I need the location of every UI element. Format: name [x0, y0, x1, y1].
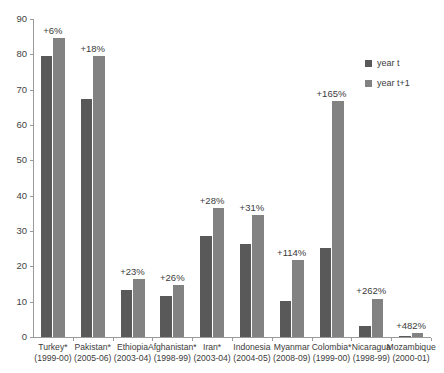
- x-axis-tick-0: [73, 338, 74, 341]
- bar-pakistan-year-t-1: [93, 56, 105, 337]
- bar-annotation-ethiopia: +23%: [113, 266, 153, 277]
- bar-nicaragua-year-t: [359, 326, 371, 337]
- bar-iran-year-t: [200, 236, 212, 337]
- bar-afghanistan-year-t: [160, 296, 172, 337]
- y-tick-label: 70: [16, 83, 27, 96]
- y-axis-tick-0: 0: [0, 337, 33, 338]
- bar-mozambique-year-t-1: [412, 333, 424, 337]
- bar-annotation-colombia: +165%: [312, 88, 352, 99]
- bar-mozambique-year-t: [399, 336, 411, 337]
- legend-swatch-icon-year-t: [365, 60, 372, 67]
- y-axis-tick-40: 40: [0, 196, 33, 197]
- y-tick-label: 90: [16, 12, 27, 25]
- legend-item-year-t-plus-1: year t+1: [365, 75, 443, 91]
- x-label-period: (2000-01): [385, 353, 437, 364]
- x-axis-tick-4: [232, 338, 233, 341]
- y-tick-label: 60: [16, 118, 27, 131]
- x-label-country: Mozambique: [385, 342, 437, 353]
- x-axis-tick-7: [351, 338, 352, 341]
- y-tick-label: 50: [16, 153, 27, 166]
- y-axis-tick-30: 30: [0, 231, 33, 232]
- y-axis-tick-70: 70: [0, 90, 33, 91]
- x-axis-tick-3: [192, 338, 193, 341]
- bar-myanmar-year-t-1: [292, 260, 304, 337]
- bar-annotation-indonesia: +31%: [232, 202, 272, 213]
- y-tick-label: 10: [16, 295, 27, 308]
- y-tick-label: 80: [16, 47, 27, 60]
- x-label-mozambique: Mozambique(2000-01): [385, 342, 437, 365]
- y-tick-label: 40: [16, 189, 27, 202]
- bar-turkey-year-t-1: [53, 38, 65, 337]
- legend-label-year-t-plus-1: year t+1: [377, 78, 410, 89]
- bar-myanmar-year-t: [280, 301, 292, 337]
- x-axis-tick-9: [431, 338, 432, 341]
- bar-afghanistan-year-t-1: [173, 285, 185, 337]
- x-axis-tick-1: [113, 338, 114, 341]
- clipped-chart-title: [0, 0, 444, 6]
- y-axis-tick-60: 60: [0, 125, 33, 126]
- legend-item-year-t: year t: [365, 55, 443, 71]
- legend-swatch-icon-year-t-plus-1: [365, 80, 372, 87]
- bar-annotation-myanmar: +114%: [272, 247, 312, 258]
- bar-chart: 0102030405060708090 Turkey*(1999-00)Paki…: [0, 0, 444, 373]
- bar-colombia-year-t: [320, 248, 332, 337]
- bar-iran-year-t-1: [213, 208, 225, 337]
- y-tick-label: 30: [16, 224, 27, 237]
- y-tick-mark: [30, 337, 33, 338]
- y-axis-tick-10: 10: [0, 302, 33, 303]
- y-axis-tick-90: 90: [0, 19, 33, 20]
- chart-legend: year t year t+1: [365, 55, 443, 95]
- x-axis-tick-6: [312, 338, 313, 341]
- bar-turkey-year-t: [41, 56, 53, 337]
- y-axis-tick-80: 80: [0, 54, 33, 55]
- bar-annotation-nicaragua: +262%: [351, 285, 391, 296]
- x-axis-tick-5: [272, 338, 273, 341]
- bar-ethiopia-year-t-1: [133, 279, 145, 337]
- bar-annotation-pakistan: +18%: [73, 43, 113, 54]
- legend-label-year-t: year t: [377, 58, 400, 69]
- bar-colombia-year-t-1: [332, 101, 344, 337]
- bar-ethiopia-year-t: [121, 290, 133, 337]
- y-axis-tick-50: 50: [0, 160, 33, 161]
- bar-indonesia-year-t: [240, 244, 252, 337]
- bar-annotation-afghanistan: +26%: [152, 272, 192, 283]
- y-tick-label: 20: [16, 259, 27, 272]
- x-axis-tick-2: [152, 338, 153, 341]
- x-axis-tick-8: [391, 338, 392, 341]
- y-axis-tick-20: 20: [0, 266, 33, 267]
- bar-indonesia-year-t-1: [252, 215, 264, 337]
- bar-nicaragua-year-t-1: [372, 299, 384, 338]
- bar-annotation-iran: +28%: [192, 195, 232, 206]
- bar-pakistan-year-t: [81, 99, 93, 338]
- bar-annotation-mozambique: +482%: [391, 320, 431, 331]
- bar-annotation-turkey: +6%: [33, 25, 73, 36]
